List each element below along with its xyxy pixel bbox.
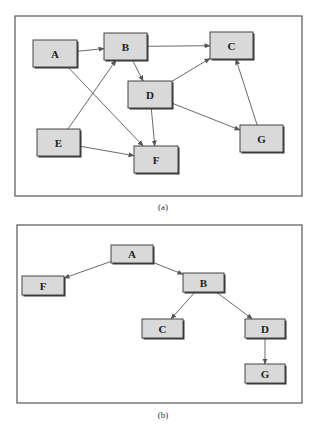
panel-a-node-b: B — [104, 33, 149, 62]
node-label: C — [228, 40, 236, 52]
node-label: G — [261, 368, 270, 380]
node-label: D — [146, 89, 154, 101]
panel-b-node-g: G — [245, 364, 287, 385]
node-label: B — [200, 277, 208, 289]
panel-a-edge-b-to-c — [147, 46, 210, 47]
panel-a-node-d: D — [128, 81, 174, 110]
panel-a-caption: (a) — [158, 202, 168, 212]
diagram-canvas: ABCDEFG (a) AFBCDG (b) — [0, 0, 326, 431]
node-label: D — [261, 323, 269, 335]
panel-b-node-c: C — [142, 319, 185, 340]
graph-figure: ABCDEFG (a) AFBCDG (b) — [0, 0, 326, 431]
panel-b-node-b: B — [183, 273, 226, 294]
panel-b-node-a: A — [111, 245, 155, 265]
node-label: C — [159, 323, 167, 335]
panel-a-directed-graph: ABCDEFG (a) — [15, 16, 302, 212]
node-label: F — [153, 154, 160, 166]
panel-b-caption: (b) — [158, 410, 169, 420]
node-label: G — [257, 133, 266, 145]
panel-a-node-a: A — [33, 40, 79, 69]
node-label: E — [55, 137, 62, 149]
node-label: A — [128, 248, 136, 260]
node-label: B — [122, 41, 130, 53]
panel-a-node-f: F — [134, 146, 180, 175]
panel-b-node-d: D — [245, 319, 287, 340]
node-label: A — [51, 48, 59, 60]
node-label: F — [40, 280, 47, 292]
panel-a-node-g: G — [240, 125, 285, 154]
panel-b-tree: AFBCDG (b) — [17, 225, 302, 420]
panel-b-node-f: F — [22, 276, 66, 297]
panel-a-node-e: E — [37, 129, 82, 158]
panel-a-node-c: C — [210, 32, 255, 61]
